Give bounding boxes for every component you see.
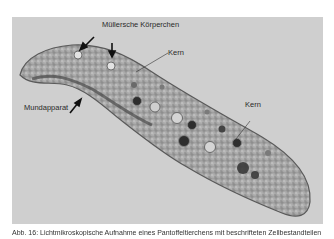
- cell-body: [20, 45, 310, 216]
- label-kern-right: Kern: [245, 101, 261, 109]
- figure-caption: Abb. 16: Lichtmikroskopische Aufnahme ei…: [12, 229, 327, 236]
- label-muellersche-koerperchen: Müllersche Körperchen: [102, 21, 179, 29]
- label-kern-upper: Kern: [168, 49, 184, 57]
- label-mundapparat: Mundapparat: [24, 104, 68, 112]
